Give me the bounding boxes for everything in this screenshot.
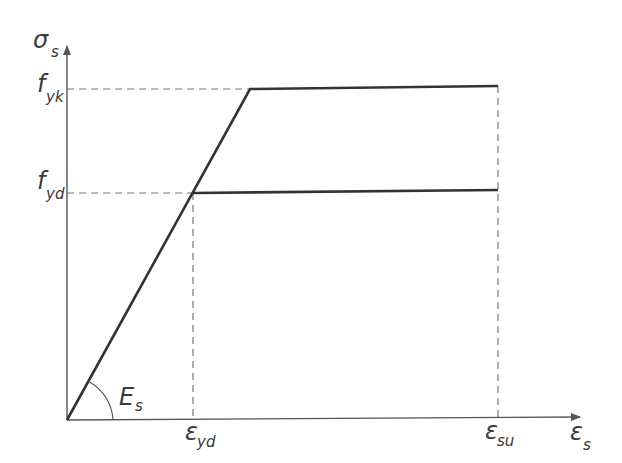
- stress-strain-diagram: σ s f yk f yd E s ε yd ε su ε s: [0, 0, 622, 463]
- x-axis-label: ε s: [570, 418, 591, 454]
- eyd-subscript: yd: [196, 433, 216, 451]
- modulus-angle-arc: [90, 382, 114, 420]
- fyd-label: f yd: [37, 167, 65, 203]
- x-axis: [67, 417, 580, 420]
- sigma-symbol: σ: [33, 26, 49, 54]
- esu-subscript: su: [497, 432, 514, 450]
- characteristic-curve: [67, 86, 498, 420]
- esu-label: ε su: [485, 417, 514, 450]
- modulus-label: E s: [119, 383, 143, 415]
- epsilon-subscript: s: [583, 436, 591, 454]
- fyk-label: f yk: [37, 70, 65, 106]
- fyd-subscript: yd: [45, 185, 65, 203]
- epsilon-symbol: ε: [570, 418, 583, 446]
- modulus-symbol: E: [119, 383, 135, 411]
- fyk-subscript: yk: [45, 88, 65, 106]
- y-axis-label: σ s: [33, 26, 59, 61]
- sigma-subscript: s: [51, 43, 59, 61]
- design-plateau: [193, 190, 498, 193]
- dashed-guides: [67, 86, 498, 420]
- modulus-subscript: s: [135, 397, 143, 415]
- eyd-label: ε yd: [185, 418, 216, 451]
